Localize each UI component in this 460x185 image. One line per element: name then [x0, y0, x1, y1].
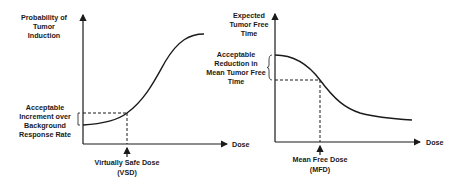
vsd-label: Virtually Safe Dose [95, 158, 160, 167]
right-y-label-line-3: Time [241, 29, 258, 38]
right-panel-mfd: Expected Tumor Free Time Dose Acceptable… [206, 11, 443, 174]
left-x-label: Dose [232, 140, 250, 149]
right-annotation-line-1: Acceptable [217, 50, 255, 59]
left-dose-response-curve [83, 34, 204, 125]
right-reduction-brace [267, 55, 272, 80]
mfd-label: Mean Free Dose [292, 155, 347, 164]
right-annotation-line-2: Reduction in [214, 59, 258, 68]
left-annotation-line-2: Increment over [19, 112, 71, 121]
vsd-abbrev: (VSD) [117, 168, 137, 177]
left-y-label-line-2: Tumor [33, 22, 55, 31]
left-annotation-line-4: Response Rate [19, 130, 71, 139]
left-annotation-line-3: Background [24, 121, 66, 130]
left-y-label-line-3: Induction [28, 31, 60, 40]
left-y-label-line-1: Probability of [21, 13, 68, 22]
right-annotation-line-3: Mean Tumor Free [206, 68, 265, 77]
right-annotation-line-4: Time [228, 77, 245, 86]
right-y-label-line-1: Expected [233, 11, 265, 20]
dose-response-diagram: Probability of Tumor Induction Dose Acce… [0, 0, 460, 185]
mfd-abbrev: (MFD) [310, 165, 331, 174]
left-annotation-line-1: Acceptable [26, 103, 64, 112]
right-x-label: Dose [426, 138, 444, 147]
left-increment-bracket [78, 113, 80, 125]
left-panel-vsd: Probability of Tumor Induction Dose Acce… [19, 13, 250, 177]
right-tumor-free-time-curve [275, 55, 412, 120]
right-y-label-line-2: Tumor Free [229, 20, 268, 29]
